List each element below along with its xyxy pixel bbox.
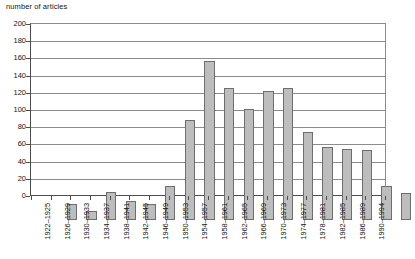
- x-axis-tick: [346, 196, 347, 200]
- x-axis-tick-label: 1946–1949: [162, 203, 170, 240]
- x-axis-tick-label: 1950–1953: [182, 203, 190, 240]
- x-axis-tick: [149, 196, 150, 200]
- x-axis-tick: [247, 196, 248, 200]
- bar-slot: [160, 48, 180, 220]
- bar-slot: [298, 48, 318, 220]
- x-axis-tick-label: 1934–1937: [103, 203, 111, 240]
- x-axis-tick-label: 1974–1977: [300, 203, 308, 240]
- x-axis-tick-label: 1978–1981: [319, 203, 327, 240]
- bar-slot: [377, 48, 397, 220]
- x-axis: 1922–19251926–19291930–19331934–19371938…: [31, 196, 385, 259]
- bar-slot: [239, 48, 259, 220]
- x-axis-tick-label: 1962–1965: [241, 203, 249, 240]
- bar-slot: [121, 48, 141, 220]
- bar-slot: [318, 48, 338, 220]
- bar-slot: [101, 48, 121, 220]
- y-axis-tick-label: 60: [2, 140, 26, 148]
- y-axis-tick: [26, 196, 30, 197]
- y-axis-tick-label: 100: [2, 106, 26, 114]
- x-axis-tick: [110, 196, 111, 200]
- x-axis-tick: [51, 196, 52, 200]
- x-axis-tick: [208, 196, 209, 200]
- x-axis-tick-label: 1954–1957: [201, 203, 209, 240]
- y-axis-labels: 020406080100120140160180200: [0, 0, 26, 259]
- y-axis-tick-label: 80: [2, 123, 26, 131]
- y-axis-tick-label: 120: [2, 89, 26, 97]
- x-axis-tick: [31, 196, 32, 200]
- bar-slot: [219, 48, 239, 220]
- bar-slot: [180, 48, 200, 220]
- bar-slot: [259, 48, 279, 220]
- x-axis-tick-label: 1926–1929: [64, 203, 72, 240]
- bar-slot: [82, 48, 102, 220]
- bar-slot: [396, 48, 415, 220]
- bar[interactable]: [401, 193, 411, 220]
- y-axis-tick-label: 20: [2, 175, 26, 183]
- x-axis-tick: [90, 196, 91, 200]
- x-axis-tick: [169, 196, 170, 200]
- plot-area: [30, 23, 386, 196]
- x-axis-tick-label: 1982–1985: [339, 203, 347, 240]
- x-axis-tick: [385, 196, 386, 200]
- x-axis-tick: [267, 196, 268, 200]
- bars-layer: [62, 48, 415, 220]
- x-axis-tick: [326, 196, 327, 200]
- y-axis-tick-label: 200: [2, 20, 26, 28]
- x-axis-tick-label: 1986–1989: [359, 203, 367, 240]
- x-axis-tick: [365, 196, 366, 200]
- x-axis-tick-label: 1930–1933: [83, 203, 91, 240]
- x-axis-tick-label: 1942–1945: [142, 203, 150, 240]
- x-axis-tick-label: 1958–1961: [221, 203, 229, 240]
- x-axis-tick: [287, 196, 288, 200]
- bar-slot: [141, 48, 161, 220]
- y-axis-tick-label: 140: [2, 72, 26, 80]
- x-axis-tick: [188, 196, 189, 200]
- y-axis-tick-label: 40: [2, 158, 26, 166]
- x-axis-tick: [70, 196, 71, 200]
- bar-slot: [278, 48, 298, 220]
- y-axis-tick-label: 180: [2, 37, 26, 45]
- x-axis-tick-label: 1970–1973: [280, 203, 288, 240]
- x-axis-tick: [228, 196, 229, 200]
- y-axis-tick-label: 160: [2, 54, 26, 62]
- gridline: [31, 41, 385, 42]
- x-axis-tick-label: 1966–1969: [260, 203, 268, 240]
- x-axis-tick-label: 1922–1925: [44, 203, 52, 240]
- bar-slot: [62, 48, 82, 220]
- bar-slot: [200, 48, 220, 220]
- x-axis-tick: [129, 196, 130, 200]
- x-axis-tick-label: 1990–1994: [378, 203, 386, 240]
- x-axis-tick-label: 1938–1941: [123, 203, 131, 240]
- x-axis-tick: [306, 196, 307, 200]
- bar-slot: [337, 48, 357, 220]
- y-axis-tick-label: 0: [2, 192, 26, 200]
- bar-slot: [357, 48, 377, 220]
